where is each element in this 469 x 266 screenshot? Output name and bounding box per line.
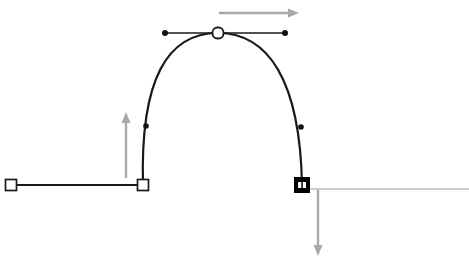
guide-layer — [122, 9, 469, 257]
path-layer[interactable] — [11, 33, 302, 185]
path-canvas-svg[interactable] — [0, 0, 469, 266]
guide-arrow-right-icon — [219, 9, 299, 18]
handle-dot-right[interactable] — [282, 30, 288, 36]
arch-path[interactable] — [11, 33, 302, 185]
apex-tangent-handle[interactable] — [162, 30, 288, 36]
curve-marker-layer — [143, 123, 304, 130]
anchor-end[interactable] — [295, 178, 310, 193]
anchor-end-inner-mark-right — [303, 182, 306, 188]
anchor-start[interactable] — [6, 180, 17, 191]
handle-dot-left[interactable] — [162, 30, 168, 36]
anchor-corner[interactable] — [138, 180, 149, 191]
anchor-apex[interactable] — [213, 28, 224, 39]
anchor-end-inner-mark-left — [298, 182, 301, 188]
anchor-end-body[interactable] — [295, 178, 310, 193]
vector-editor-canvas[interactable]: Bezier Path Editing Canvas Vector path e… — [0, 0, 469, 266]
guide-arrow-down-icon — [314, 190, 323, 256]
curve-marker-left — [143, 123, 149, 129]
curve-marker-right — [298, 124, 304, 130]
guide-arrow-up-icon — [122, 112, 131, 178]
